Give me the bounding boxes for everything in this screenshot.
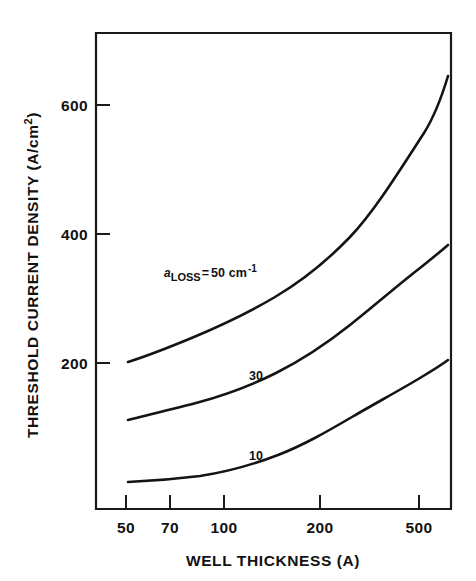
curve-alpha-loss-50 [128, 76, 448, 362]
figure-container: 600 400 200 50 70 100 200 500 WELL THICK… [0, 0, 476, 581]
x-axis-title: WELL THICKNESS (A) [186, 552, 360, 569]
y-tick-label-200: 200 [61, 355, 88, 372]
y-axis-title-tail: ) [24, 112, 41, 118]
y-axis-ticks [96, 105, 110, 363]
annotation-alpha-loss-30: 30 [249, 369, 263, 383]
annotation-alpha-loss-50: aLOSS=50cm-1 [164, 263, 257, 283]
svg-text:THRESHOLD CURRENT DENSITY (A/c: THRESHOLD CURRENT DENSITY (A/cm2) [22, 112, 41, 438]
y-axis-title: THRESHOLD CURRENT DENSITY (A/cm2) [22, 112, 41, 438]
x-tick-label-100: 100 [210, 519, 237, 536]
y-tick-label-400: 400 [61, 226, 88, 243]
alpha-value-50: 50 [211, 266, 225, 280]
y-axis-title-superscript: 2 [22, 118, 34, 125]
svg-text:aLOSS=50cm-1: aLOSS=50cm-1 [164, 263, 257, 283]
y-axis-title-main: THRESHOLD CURRENT DENSITY (A/cm [24, 124, 41, 438]
x-tick-labels: 50 70 100 200 500 [117, 519, 433, 536]
x-axis-ticks [126, 495, 419, 509]
y-tick-label-600: 600 [61, 97, 88, 114]
alpha-subscript-loss: LOSS [171, 271, 201, 283]
x-tick-label-200: 200 [306, 519, 333, 536]
x-tick-label-70: 70 [161, 519, 179, 536]
plot-frame [96, 33, 451, 509]
alpha-unit-cm: cm [229, 266, 247, 280]
threshold-current-density-chart: 600 400 200 50 70 100 200 500 WELL THICK… [0, 0, 476, 581]
alpha-unit-exponent: -1 [248, 263, 257, 274]
y-tick-labels: 600 400 200 [61, 97, 88, 372]
x-tick-label-50: 50 [117, 519, 135, 536]
x-tick-label-500: 500 [405, 519, 432, 536]
curve-alpha-loss-10 [128, 360, 448, 482]
annotation-alpha-loss-10: 10 [249, 449, 263, 463]
alpha-equals: = [202, 266, 209, 280]
